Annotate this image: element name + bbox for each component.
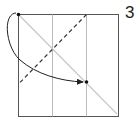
start-point-dot [17, 13, 21, 17]
target-point-dot [85, 80, 89, 84]
fold-diagram [0, 0, 136, 120]
step-number: 3 [125, 4, 134, 21]
